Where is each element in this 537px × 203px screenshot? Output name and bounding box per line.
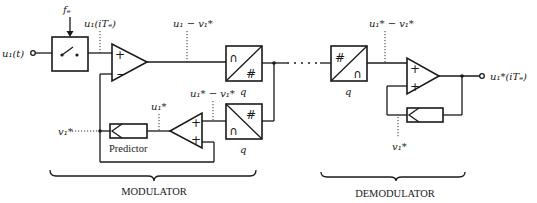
predictor-block <box>110 124 147 138</box>
sampler-block <box>52 37 88 71</box>
output-signal-label: u₁*(iTₑ) <box>490 71 527 82</box>
quantizer-q-label: q <box>240 86 246 97</box>
sampled-signal-label: u₁(iTₑ) <box>84 18 116 29</box>
input-terminal <box>31 51 36 56</box>
demodulator-brace <box>321 172 465 181</box>
junction-node <box>98 129 102 133</box>
modulator-brace <box>50 170 256 181</box>
decoder-q-label: q <box>240 144 246 155</box>
quantized-error-label: u₁* − v₁* <box>190 88 235 99</box>
svg-text:+: + <box>191 116 201 130</box>
demodulator-label: DEMODULATOR <box>355 188 435 199</box>
demod-adder-block: + + <box>407 58 439 94</box>
sampling-frequency-label: fₑ <box>62 4 71 15</box>
error-signal-label: u₁ − v₁* <box>173 18 213 29</box>
output-terminal <box>480 74 485 79</box>
predictor-label: Predictor <box>109 143 148 154</box>
digital-symbol-icon: # <box>246 108 256 122</box>
digital-symbol-icon: # <box>335 51 345 65</box>
analog-symbol-icon: ∩ <box>353 67 362 81</box>
prediction-signal-label: v₁* <box>58 126 73 137</box>
demod-prediction-label: v₁* <box>392 141 407 152</box>
quantizer-encoder-block: ∩ # <box>226 46 262 81</box>
analog-symbol-icon: ∩ <box>229 124 238 138</box>
subtractor-block: + − <box>112 44 147 81</box>
demod-decoder-q-label: q <box>345 86 351 97</box>
input-signal-label: u₁(t) <box>2 48 24 59</box>
digital-symbol-icon: # <box>246 67 256 81</box>
svg-text:+: + <box>191 133 201 147</box>
adder-block: + + <box>170 113 202 148</box>
demod-decoder-block: # ∩ <box>331 46 367 81</box>
modulator-label: MODULATOR <box>121 186 187 197</box>
arrow-down-icon <box>67 31 74 37</box>
dpcm-diagram: u₁(t) fₑ u₁(iTₑ) + − u₁ − v₁* ∩ # q <box>0 0 537 203</box>
analog-symbol-icon: ∩ <box>229 51 238 65</box>
demod-error-label: u₁* − v₁* <box>369 18 414 29</box>
svg-text:+: + <box>410 80 420 94</box>
reconstructed-signal-label: u₁* <box>151 101 166 112</box>
svg-text:−: − <box>116 67 126 81</box>
local-decoder-block: # ∩ <box>226 104 262 139</box>
svg-text:+: + <box>115 48 125 62</box>
svg-text:+: + <box>410 62 420 76</box>
demod-predictor-block <box>407 108 443 122</box>
